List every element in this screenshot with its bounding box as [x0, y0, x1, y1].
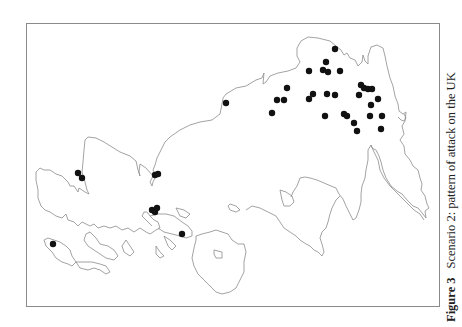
attack-marker	[325, 69, 331, 75]
attack-marker	[310, 91, 316, 97]
attack-marker	[368, 102, 374, 108]
attack-marker	[351, 120, 357, 126]
attack-marker	[354, 128, 360, 134]
attack-marker	[306, 96, 312, 102]
attack-marker	[154, 205, 160, 211]
attack-marker	[378, 126, 384, 132]
attack-marker	[75, 170, 81, 176]
attack-marker	[179, 231, 185, 237]
figure-label: Figure 3	[444, 277, 458, 322]
attack-marker	[269, 110, 275, 116]
attack-marker	[356, 92, 362, 98]
coastline	[36, 37, 429, 294]
attack-marker	[332, 46, 338, 52]
attack-marker	[79, 175, 85, 181]
attack-marker	[281, 97, 287, 103]
uk-map	[0, 0, 462, 327]
attack-marker	[332, 92, 338, 98]
attack-marker	[284, 85, 290, 91]
attack-marker	[155, 171, 161, 177]
attack-marker	[50, 241, 56, 247]
attack-marker	[344, 113, 350, 119]
attack-marker	[306, 68, 312, 74]
attack-marker	[324, 91, 330, 97]
attack-marker	[379, 113, 385, 119]
attack-marker	[367, 113, 373, 119]
figure-caption: Figure 3Scenario 2: pattern of attack on…	[444, 72, 459, 322]
attack-marker	[223, 100, 229, 106]
attack-marker	[375, 96, 381, 102]
attack-markers	[50, 46, 385, 247]
caption-text: Scenario 2: pattern of attack on the UK	[444, 72, 458, 268]
attack-marker	[369, 86, 375, 92]
attack-marker	[322, 113, 328, 119]
attack-marker	[337, 68, 343, 74]
attack-marker	[323, 59, 329, 65]
attack-marker	[274, 97, 280, 103]
